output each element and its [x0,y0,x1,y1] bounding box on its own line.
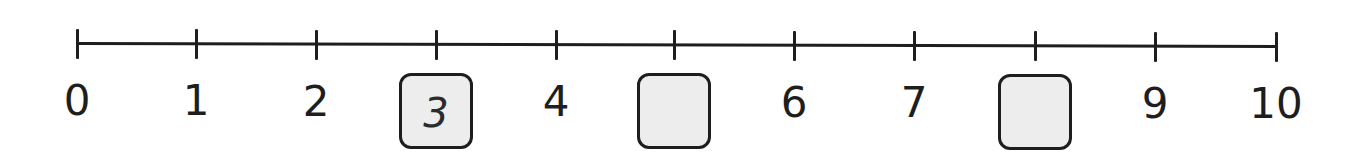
answer-box-3[interactable]: 3 [399,73,473,149]
tick-label-10: 10 [1236,83,1316,125]
tick-mark-7 [913,31,916,61]
tick-mark-0 [76,29,79,59]
tick-mark-1 [195,29,198,59]
answer-box-value: 3 [423,93,448,133]
tick-mark-8 [1034,31,1037,61]
number-line-axis [77,42,1278,48]
tick-label-7: 7 [874,82,954,124]
tick-label-0: 0 [37,80,117,122]
tick-label-2: 2 [276,81,356,123]
answer-box-5[interactable] [637,73,711,149]
tick-mark-10 [1275,32,1278,62]
tick-mark-5 [673,30,676,60]
tick-label-9: 9 [1115,83,1195,125]
tick-label-1: 1 [156,80,236,122]
tick-mark-3 [435,30,438,60]
number-line-diagram: 012467910 3 [0,0,1363,154]
tick-label-4: 4 [516,81,596,123]
tick-label-6: 6 [754,82,834,124]
answer-box-8[interactable] [998,74,1072,150]
tick-mark-4 [555,30,558,60]
tick-mark-2 [315,30,318,60]
tick-mark-9 [1154,32,1157,62]
tick-mark-6 [793,31,796,61]
